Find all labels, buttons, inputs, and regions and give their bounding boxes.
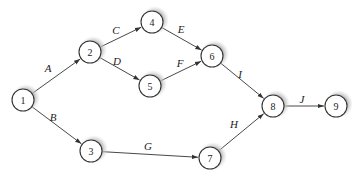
node-5: 5 xyxy=(139,75,161,97)
node-9: 9 xyxy=(325,95,347,117)
node-label: 7 xyxy=(208,153,213,164)
node-label: 1 xyxy=(21,95,26,106)
edge-c xyxy=(100,27,141,47)
node-3: 3 xyxy=(80,140,102,162)
edge-label-g: G xyxy=(144,140,152,152)
node-label: 8 xyxy=(271,101,276,112)
edge-label-d: D xyxy=(112,55,121,67)
edge-label-b: B xyxy=(50,111,57,123)
edge-label-f: F xyxy=(176,57,184,69)
node-7: 7 xyxy=(199,147,221,169)
edge-g xyxy=(102,152,198,158)
node-6: 6 xyxy=(201,45,223,67)
network-diagram: 123456789 ABCDEFGHIJ xyxy=(0,0,361,177)
node-label: 2 xyxy=(88,47,93,58)
node-label: 3 xyxy=(89,146,94,157)
edge-label-h: H xyxy=(229,118,239,130)
node-label: 4 xyxy=(150,17,155,28)
node-label: 6 xyxy=(210,51,215,62)
edge-h xyxy=(218,114,263,151)
edge-label-c: C xyxy=(112,24,120,36)
node-8: 8 xyxy=(262,95,284,117)
edge-a xyxy=(32,59,80,94)
edge-b xyxy=(32,107,82,144)
node-1: 1 xyxy=(12,89,34,111)
node-4: 4 xyxy=(141,11,163,33)
node-2: 2 xyxy=(79,41,101,63)
edge-label-a: A xyxy=(44,62,52,74)
edge-label-i: I xyxy=(237,68,243,80)
edge-label-j: J xyxy=(300,93,306,105)
node-label: 9 xyxy=(334,101,339,112)
node-label: 5 xyxy=(148,81,153,92)
edge-i xyxy=(221,63,264,98)
edge-label-e: E xyxy=(177,23,185,35)
